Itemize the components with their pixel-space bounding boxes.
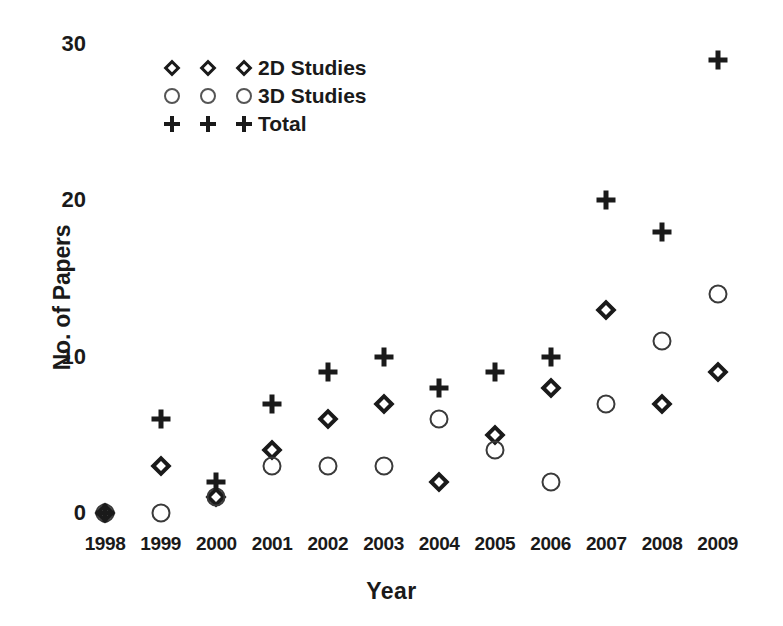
legend-item-3d-studies[interactable]: 3D Studies	[158, 82, 418, 110]
data-point-circle-1999	[151, 504, 170, 523]
legend-label: 3D Studies	[258, 82, 367, 109]
legend-label: 2D Studies	[258, 54, 367, 81]
data-point-circle-2007	[597, 394, 616, 413]
data-point-diamond-2003	[373, 393, 394, 414]
data-point-plus-2006	[541, 347, 560, 366]
legend-diamond-icon	[236, 60, 253, 77]
data-point-diamond-2008	[651, 393, 672, 414]
legend-diamond-icon	[164, 60, 181, 77]
data-point-circle-2005	[485, 441, 504, 460]
data-point-plus-2001	[263, 394, 282, 413]
data-point-circle-2006	[541, 472, 560, 491]
legend-plus-icon	[236, 116, 252, 132]
data-point-diamond-2006	[540, 377, 561, 398]
scatter-chart-figure: No. of Papers Year 0102030 1998199920002…	[0, 0, 783, 626]
data-point-circle-2004	[430, 410, 449, 429]
data-point-plus-2009	[708, 50, 727, 69]
data-point-plus-2008	[653, 222, 672, 241]
legend-plus-icon	[200, 116, 216, 132]
data-point-plus-1999	[151, 410, 170, 429]
data-point-plus-2004	[430, 378, 449, 397]
legend-label: Total	[258, 110, 307, 137]
data-point-circle-2002	[318, 457, 337, 476]
data-point-diamond-2007	[596, 299, 617, 320]
data-point-diamond-2009	[707, 362, 728, 383]
data-point-diamond-2004	[429, 471, 450, 492]
legend-diamond-icon	[200, 60, 217, 77]
data-point-plus-2007	[597, 191, 616, 210]
data-point-circle-2003	[374, 457, 393, 476]
data-point-circle-2009	[708, 285, 727, 304]
data-point-plus-2002	[318, 363, 337, 382]
data-point-plus-1998	[96, 504, 115, 523]
data-point-diamond-2002	[317, 409, 338, 430]
legend-circle-icon	[236, 88, 252, 104]
data-point-plus-2003	[374, 347, 393, 366]
chart-legend: 2D Studies3D StudiesTotal	[158, 54, 418, 138]
legend-plus-icon	[164, 116, 180, 132]
data-point-plus-2000	[207, 472, 226, 491]
legend-circle-icon	[200, 88, 216, 104]
data-point-circle-2008	[653, 332, 672, 351]
data-point-plus-2005	[485, 363, 504, 382]
legend-item-total[interactable]: Total	[158, 110, 418, 138]
data-point-diamond-1999	[150, 455, 171, 476]
data-point-circle-2001	[263, 457, 282, 476]
legend-circle-icon	[164, 88, 180, 104]
legend-item-2d-studies[interactable]: 2D Studies	[158, 54, 418, 82]
